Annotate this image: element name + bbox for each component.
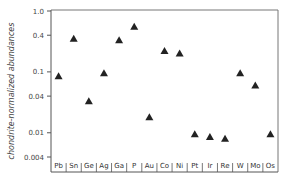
triangle-marker-icon <box>145 113 153 120</box>
x-axis: PbSnGeAgGaPAuCoNiPtIrReWMoOs <box>54 162 275 172</box>
x-category-label: Co <box>160 162 169 170</box>
x-category-label: Ga <box>114 162 124 170</box>
plot-frame <box>51 10 278 172</box>
y-tick-label: 0.04 <box>28 93 44 101</box>
x-category-label: Sn <box>69 162 78 170</box>
x-category-label: Ir <box>207 162 212 170</box>
triangle-marker-icon <box>70 35 78 42</box>
x-category-label: Mo <box>250 162 260 170</box>
x-category-label: Ni <box>176 162 183 170</box>
triangle-marker-icon <box>115 36 123 43</box>
triangle-marker-icon <box>251 81 259 88</box>
y-axis: 1.00.40.10.040.010.004 <box>24 8 51 162</box>
x-category-label: Pb <box>54 162 63 170</box>
x-category-label: Ag <box>99 162 108 170</box>
y-axis-label: chondrite-normalized abundances <box>7 23 16 160</box>
triangle-marker-icon <box>191 130 199 137</box>
x-category-label: Re <box>221 162 230 170</box>
x-category-label: Os <box>266 162 276 170</box>
triangle-marker-icon <box>85 97 93 104</box>
x-category-label: Pt <box>191 162 198 170</box>
x-category-label: Ge <box>84 162 94 170</box>
triangle-marker-icon <box>221 135 229 142</box>
y-tick-label: 1.0 <box>33 8 44 16</box>
data-points <box>55 23 275 142</box>
y-tick-label: 0.01 <box>28 129 44 137</box>
triangle-marker-icon <box>266 130 274 137</box>
y-tick-label: 0.004 <box>24 154 45 162</box>
x-category-label: Au <box>145 162 154 170</box>
triangle-marker-icon <box>100 69 108 76</box>
triangle-marker-icon <box>130 23 138 30</box>
y-tick-label: 0.4 <box>33 32 45 40</box>
triangle-marker-icon <box>206 133 214 140</box>
triangle-marker-icon <box>161 47 169 54</box>
x-category-label: W <box>237 162 244 170</box>
triangle-marker-icon <box>55 72 63 79</box>
x-category-label: P <box>132 162 136 170</box>
triangle-marker-icon <box>176 50 184 57</box>
triangle-marker-icon <box>236 69 244 76</box>
y-tick-label: 0.1 <box>33 68 44 76</box>
scatter-chart: 1.00.40.10.040.010.004 PbSnGeAgGaPAuCoNi… <box>0 0 293 186</box>
